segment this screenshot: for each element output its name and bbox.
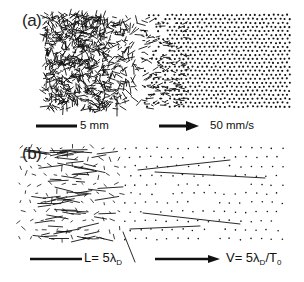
- panel-b-length-prefix: L= 5λ: [84, 250, 116, 265]
- panel-a-plot: [40, 9, 291, 116]
- panel-b-length-scale-text: L= 5λD: [84, 250, 122, 265]
- panel-b-velocity-sub1: D: [260, 258, 266, 267]
- panel-a-length-scale-text: 5 mm: [80, 119, 109, 131]
- panel-b-length-sub: D: [116, 258, 122, 267]
- panel-b-velocity-mid: /T: [265, 250, 277, 265]
- panel-b-label: (b): [22, 144, 41, 164]
- panel-b-velocity-sub2: 0: [277, 258, 281, 267]
- panel-a-label: (a): [22, 11, 41, 31]
- figure: (a) 5 mm 50 mm/s (b) L= 5λD V= 5λD/T0: [0, 0, 304, 282]
- panel-a-velocity-arrow-icon: [159, 121, 199, 131]
- figure-canvas: [0, 0, 304, 282]
- panel-b-plot: [17, 144, 284, 262]
- panel-a-velocity-scale-text: 50 mm/s: [210, 119, 254, 131]
- panel-b-velocity-arrow-icon: [155, 255, 220, 263]
- panel-b-velocity-prefix: V= 5λ: [226, 250, 260, 265]
- panel-b-velocity-scale-text: V= 5λD/T0: [226, 250, 281, 265]
